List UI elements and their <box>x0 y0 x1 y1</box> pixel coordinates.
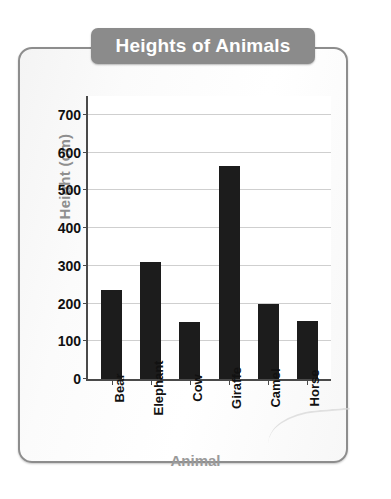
y-tick-label: 100 <box>58 333 81 349</box>
bar-slot: Bear <box>92 96 131 379</box>
x-tick-label: Horse <box>307 370 322 407</box>
bar-slot: Horse <box>288 96 327 379</box>
y-tick-label: 600 <box>58 145 81 161</box>
bar <box>219 166 240 379</box>
page-title: Heights of Animals <box>116 35 291 57</box>
y-tick-label: 0 <box>73 371 81 387</box>
bar <box>101 290 122 379</box>
y-tick-label: 400 <box>58 220 81 236</box>
x-axis-title: Animal <box>0 452 391 469</box>
x-tick-label: Cow <box>190 374 205 401</box>
plot-inner: 0100200300400500600700 BearElephantCowGi… <box>86 96 331 381</box>
bar-slot: Giraffe <box>210 96 249 379</box>
y-tick-label: 500 <box>58 182 81 198</box>
y-tick-label: 700 <box>58 107 81 123</box>
bar-slot: Camel <box>249 96 288 379</box>
y-tick-label: 200 <box>58 296 81 312</box>
plot-area: 0100200300400500600700 BearElephantCowGi… <box>86 96 331 381</box>
chart-title-banner: Heights of Animals <box>91 28 315 64</box>
bar <box>179 322 200 379</box>
x-tick-label: Bear <box>112 374 127 403</box>
x-tick-label: Giraffe <box>229 367 244 409</box>
y-tick-label: 300 <box>58 258 81 274</box>
bar-slot: Cow <box>170 96 209 379</box>
x-tick-label: Camel <box>268 368 283 407</box>
x-tick-label: Elephant <box>151 361 166 416</box>
bar-slot: Elephant <box>131 96 170 379</box>
bar-series: BearElephantCowGiraffeCamelHorse <box>88 96 331 379</box>
